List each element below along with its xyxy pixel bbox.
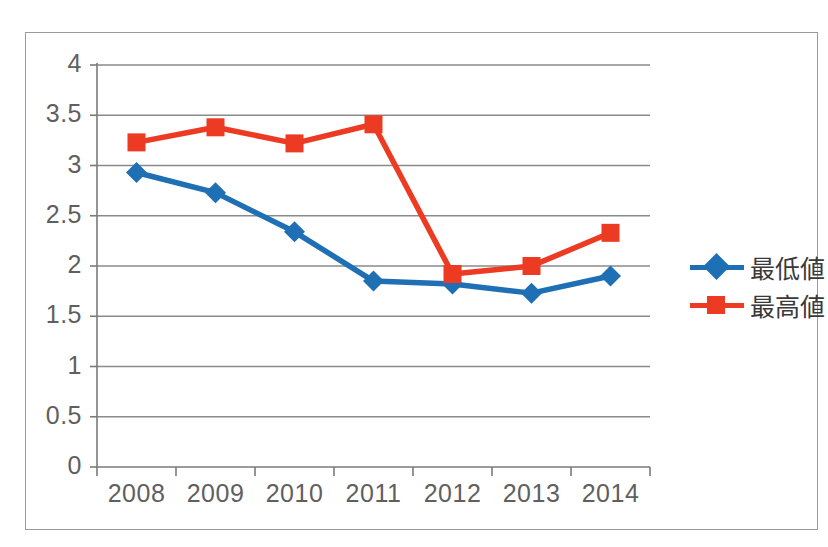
y-tick-label: 1.5 xyxy=(12,300,82,329)
y-tick-label: 3.5 xyxy=(12,99,82,128)
legend-item-min: 最低値 xyxy=(690,248,810,286)
legend-item-max: 最高値 xyxy=(690,286,810,324)
y-tick-label: 2.5 xyxy=(12,200,82,229)
chart-legend: 最低値 最高値 xyxy=(690,248,810,324)
x-axis-ticks xyxy=(97,467,650,476)
legend-key-diamond-icon xyxy=(690,256,744,278)
legend-key-square-icon xyxy=(690,294,744,316)
x-tick-label: 2014 xyxy=(561,479,661,508)
y-tick-label: 3 xyxy=(12,150,82,179)
legend-label-max: 最高値 xyxy=(750,287,825,323)
square-marker-icon xyxy=(707,296,725,314)
y-tick-label: 1 xyxy=(12,351,82,380)
y-tick-label: 0.5 xyxy=(12,401,82,430)
y-tick-label: 2 xyxy=(12,250,82,279)
y-axis-ticks xyxy=(90,65,97,467)
y-tick-label: 0 xyxy=(12,451,82,480)
diamond-marker-icon xyxy=(703,253,730,280)
legend-label-min: 最低値 xyxy=(750,249,825,285)
data-series-layer xyxy=(126,115,621,303)
y-tick-label: 4 xyxy=(12,49,82,78)
